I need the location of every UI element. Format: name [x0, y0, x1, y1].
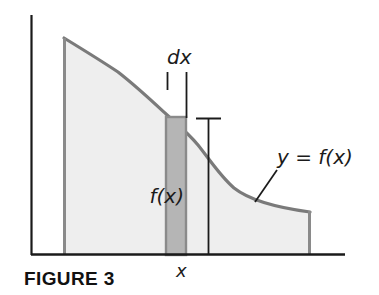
curve-equation-label: y = f(x): [276, 145, 353, 169]
x-axis-label: x: [175, 260, 187, 281]
dx-label: dx: [167, 45, 192, 69]
figure-3-graphic: dx f(x) x y = f(x) FIGURE 3: [0, 0, 379, 295]
figure-caption: FIGURE 3: [24, 268, 115, 289]
figure-container: dx f(x) x y = f(x) FIGURE 3: [0, 0, 379, 295]
fx-label: f(x): [150, 184, 184, 208]
